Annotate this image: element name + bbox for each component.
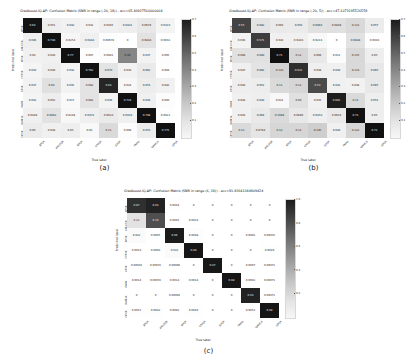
- heatmap-cell-value: 0.0448: [28, 114, 37, 117]
- heatmap-cell-value: 0.053: [143, 129, 151, 132]
- heatmap-cell-value: 0: [212, 249, 214, 252]
- heatmap-cell: 0.052: [42, 93, 61, 108]
- heatmap-cell: 0.771: [156, 123, 175, 138]
- heatmap-cell-value: 0.714: [124, 99, 132, 102]
- heatmap-cell: 0.93: [241, 288, 260, 303]
- heatmap-cell-value: 0.024: [124, 84, 132, 87]
- confusion-matrix-figure-b: Gradboost-IQ-AP: Confusion Matrix (SNR i…: [209, 0, 418, 160]
- heatmap-cell-value: 0.96: [172, 234, 178, 237]
- heatmap-cell-value: 0.0445: [104, 24, 113, 27]
- heatmap-cell-value: 0: [212, 309, 214, 312]
- heatmap-cell: 0.0051: [127, 303, 146, 318]
- heatmap-cell: 0.0433: [118, 108, 137, 123]
- heatmap-cell-value: 0.0002: [246, 234, 255, 237]
- heatmap-cell: 0: [241, 243, 260, 258]
- heatmap-cell: 0: [241, 213, 260, 228]
- panel-label-b: (b): [209, 163, 418, 173]
- heatmap-cell: 0.0005: [146, 228, 165, 243]
- heatmap-cell-value: 0.051: [48, 24, 56, 27]
- heatmap-cell: 0: [241, 198, 260, 213]
- heatmap-cell: 0.0044: [165, 198, 184, 213]
- heatmap-cell-value: 0.0001: [170, 219, 179, 222]
- heatmap-cell: 0.744: [42, 33, 61, 48]
- heatmap-cell: 0.714: [118, 93, 137, 108]
- heatmap-cell: 0.74: [146, 213, 165, 228]
- heatmap-cell: 0.762: [80, 63, 99, 78]
- heatmap-cell-value: 0.00071: [264, 279, 275, 282]
- heatmap-cell-value: 0.71: [353, 114, 359, 117]
- heatmap-cell-value: 0.0869: [313, 24, 322, 27]
- heatmap-cell: 0.022: [127, 228, 146, 243]
- heatmap-cell-value: 0: [250, 249, 252, 252]
- heatmap-cell-value: 0.11: [353, 99, 359, 102]
- panel-a-heatmap: 0.690.0510.0420.0320.04450.04910.06780.0…: [23, 18, 175, 138]
- heatmap-cell-value: 0.0031: [161, 39, 170, 42]
- panel-b-colorbar-ticks: 0.70.60.50.40.30.20.1: [399, 19, 418, 137]
- heatmap-cell-value: 0.611: [295, 69, 303, 72]
- heatmap-cell: 0.12: [289, 123, 308, 138]
- heatmap-cell: 0.00674: [99, 33, 118, 48]
- heatmap-cell-value: 0.043: [48, 54, 56, 57]
- heatmap-cell-value: 0.046: [29, 39, 37, 42]
- heatmap-cell-value: 0.0014: [132, 279, 141, 282]
- heatmap-cell: 0.06: [23, 123, 42, 138]
- heatmap-cell: 0.0001: [165, 213, 184, 228]
- heatmap-cell: 0: [146, 288, 165, 303]
- heatmap-cell: 0.036: [232, 33, 251, 48]
- heatmap-cell: 0.0686: [289, 108, 308, 123]
- heatmap-cell-value: 0.12: [296, 54, 302, 57]
- heatmap-cell: 0.082: [80, 78, 99, 93]
- heatmap-cell: 0.98: [184, 243, 203, 258]
- heatmap-cell-value: 0.0002: [246, 279, 255, 282]
- heatmap-cell: 0.71: [365, 123, 384, 138]
- heatmap-cell-value: 0: [231, 294, 233, 297]
- heatmap-cell: 0.00069: [165, 288, 184, 303]
- heatmap-cell: 0.0443: [289, 33, 308, 48]
- heatmap-cell: 0.049: [251, 93, 270, 108]
- heatmap-cell: 0.043: [270, 33, 289, 48]
- heatmap-cell-value: 0.122: [352, 129, 360, 132]
- heatmap-cell: 0.011: [327, 48, 346, 63]
- heatmap-cell-value: 0.04: [30, 54, 36, 57]
- heatmap-cell: 0.079: [99, 63, 118, 78]
- heatmap-cell-value: 0.049: [48, 69, 56, 72]
- heatmap-cell-value: 0.032: [67, 69, 75, 72]
- heatmap-cell-value: 0: [193, 264, 195, 267]
- heatmap-cell-value: 0.0764: [256, 129, 265, 132]
- heatmap-cell-value: 0.037: [143, 54, 151, 57]
- heatmap-cell-value: 0: [212, 294, 214, 297]
- heatmap-cell-value: 0.09: [296, 99, 302, 102]
- heatmap-cell-value: 0.12: [296, 129, 302, 132]
- heatmap-cell: 0.044: [327, 63, 346, 78]
- heatmap-cell: 0.0248: [61, 108, 80, 123]
- heatmap-cell: 0.059: [289, 18, 308, 33]
- heatmap-cell: 0: [222, 198, 241, 213]
- heatmap-cell-value: 0.052: [257, 84, 265, 87]
- heatmap-cell: 0.064: [251, 108, 270, 123]
- colorbar-tick-label: 0.7: [401, 17, 405, 21]
- heatmap-cell: 0: [222, 303, 241, 318]
- heatmap-cell-value: 0.145: [314, 129, 322, 132]
- heatmap-cell-value: 0.0472: [85, 114, 94, 117]
- heatmap-cell-value: 0.129: [276, 69, 284, 72]
- colorbar-tick-label: 0.6: [296, 244, 300, 248]
- heatmap-cell-value: 0: [231, 234, 233, 237]
- heatmap-cell: 0: [203, 288, 222, 303]
- colorbar-tick-label: 0.3: [401, 84, 405, 88]
- heatmap-cell-value: 0.0254: [66, 39, 75, 42]
- heatmap-cell: 0.04: [23, 48, 42, 63]
- heatmap-cell: 0: [222, 213, 241, 228]
- heatmap-cell: 0.00071: [260, 258, 279, 273]
- heatmap-cell: 0.043: [327, 123, 346, 138]
- heatmap-cell: 0.0862: [42, 108, 61, 123]
- heatmap-cell-value: 0.037: [29, 84, 37, 87]
- heatmap-cell: 0: [203, 303, 222, 318]
- heatmap-cell-value: 0.69: [30, 24, 36, 27]
- heatmap-cell: 0.005: [156, 48, 175, 63]
- heatmap-cell: 0.047: [232, 63, 251, 78]
- heatmap-cell-value: 0.12: [277, 129, 283, 132]
- heatmap-cell: 0.057: [365, 18, 384, 33]
- heatmap-cell-value: 0.1088: [275, 114, 284, 117]
- heatmap-cell: 0.067: [365, 78, 384, 93]
- colorbar-tick-label: 0.3: [192, 84, 196, 88]
